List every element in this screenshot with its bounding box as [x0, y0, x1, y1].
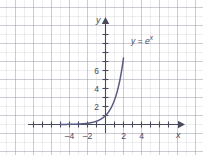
- y-tick-label-4: 4: [85, 85, 99, 94]
- exponential-function-graph: y x –4 –2 2 4 2 4 6 y = ex: [0, 0, 203, 155]
- curve-equation-label: y = ex: [131, 37, 153, 46]
- plot-area: [0, 0, 203, 155]
- x-axis-label: x: [176, 131, 181, 140]
- x-tick-label-neg4: –4: [62, 132, 78, 141]
- x-tick-label-neg2: –2: [80, 132, 96, 141]
- curve-equation-exponent: x: [150, 34, 153, 41]
- y-axis-label: y: [96, 16, 101, 25]
- x-axis-arrowhead: [178, 121, 185, 128]
- x-tick-label-2: 2: [116, 132, 132, 141]
- x-tick-label-4: 4: [134, 132, 150, 141]
- curve-equation-base: y = e: [131, 36, 150, 46]
- y-tick-label-6: 6: [85, 67, 99, 76]
- y-axis-arrowhead: [102, 17, 109, 24]
- y-tick-label-2: 2: [85, 103, 99, 112]
